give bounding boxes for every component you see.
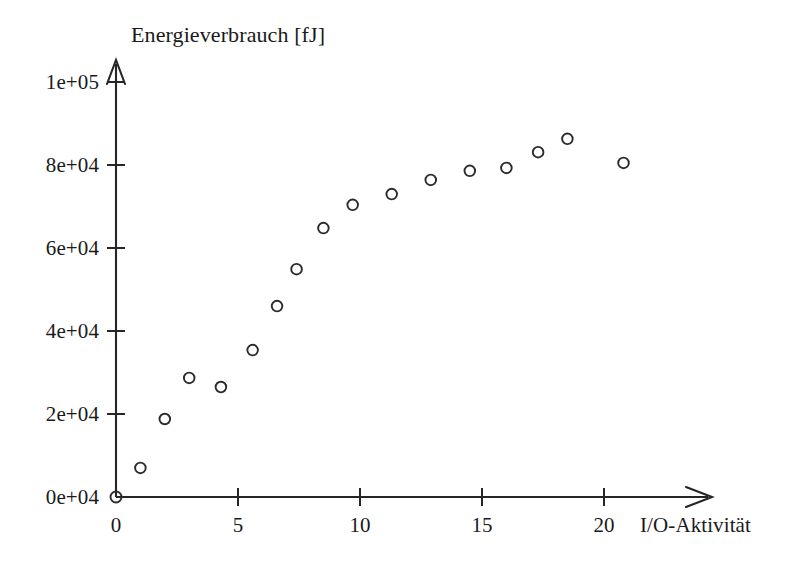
- y-axis-tick-label: 2e+04: [0, 404, 99, 425]
- x-axis-tick-label: 20: [593, 515, 614, 536]
- data-points-group: [135, 134, 629, 474]
- data-point-marker: [247, 345, 258, 356]
- x-axis-tick-label: 0: [111, 515, 122, 536]
- y-axis-tick-label: 0e+04: [0, 487, 99, 508]
- y-axis-tick-label: 1e+05: [0, 72, 99, 93]
- y-axis-tick-label: 8e+04: [0, 155, 99, 176]
- x-axis-tick-label: 5: [233, 515, 244, 536]
- data-point-marker: [216, 382, 227, 393]
- data-point-marker: [347, 200, 358, 211]
- y-axis-title: Energieverbrauch [fJ]: [131, 24, 325, 46]
- chart-container: Energieverbrauch [fJ] I/O-Aktivität 0e+0…: [0, 0, 788, 570]
- y-axis-tick-label: 6e+04: [0, 238, 99, 259]
- y-axis-tick-label: 4e+04: [0, 321, 99, 342]
- tick-marks-group: [107, 82, 604, 506]
- data-point-marker: [135, 463, 146, 474]
- data-point-marker: [291, 264, 302, 275]
- data-point-marker: [533, 147, 544, 158]
- data-point-marker: [318, 223, 329, 234]
- data-point-marker: [618, 158, 629, 169]
- x-axis-title: I/O-Aktivität: [640, 515, 751, 536]
- data-point-marker: [386, 189, 397, 200]
- data-point-marker: [501, 163, 512, 174]
- data-point-marker: [425, 175, 436, 186]
- data-point-marker: [562, 134, 573, 145]
- data-point-marker: [272, 301, 283, 312]
- data-point-marker: [160, 414, 171, 425]
- axes-group: [107, 60, 712, 507]
- data-point-marker: [465, 166, 476, 177]
- x-axis-tick-label: 15: [471, 515, 492, 536]
- x-axis-tick-label: 10: [349, 515, 370, 536]
- data-point-marker: [184, 373, 195, 384]
- scatter-plot-svg: [0, 0, 788, 570]
